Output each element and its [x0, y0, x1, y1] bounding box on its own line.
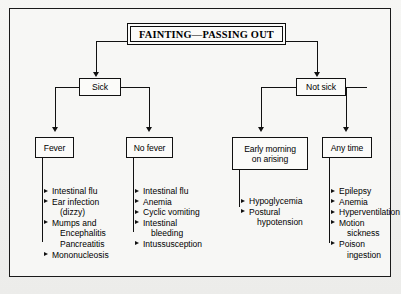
arrow-right-icon — [44, 252, 48, 256]
connector-title-left-horizontal — [96, 41, 128, 42]
arrow-right-icon — [135, 199, 139, 203]
list-item-label: Encephalitis — [60, 228, 106, 239]
arrow-right-icon — [241, 199, 245, 203]
arrow-right-icon — [331, 241, 335, 245]
node-no-fever[interactable]: No fever — [126, 137, 173, 158]
list-item-label: Epilepsy — [339, 186, 371, 197]
list-item-label: Intestinal flu — [143, 186, 188, 197]
connector-notsick-right-vertical — [346, 87, 347, 128]
node-early-morning-label-line2: on arising — [252, 154, 288, 164]
node-early-morning[interactable]: Early morning on arising — [232, 137, 308, 170]
arrow-right-icon — [241, 209, 245, 213]
list-item-label: Motion — [339, 218, 365, 229]
arrow-right-icon — [331, 220, 335, 224]
list-item-label: Mononucleosis — [52, 250, 109, 261]
arrowhead-to-fever — [52, 127, 58, 132]
list-item-label: Mumps and — [52, 218, 96, 229]
node-sick[interactable]: Sick — [79, 78, 121, 96]
list-item-label: Intussusception — [143, 239, 202, 250]
connector-sick-right-horizontal — [120, 87, 150, 88]
list-item-label: Ear infection — [52, 197, 99, 208]
page-title: FAINTING—PASSING OUT — [130, 26, 284, 43]
connector-notsick-right-horizontal — [345, 87, 367, 88]
node-fever[interactable]: Fever — [35, 137, 74, 158]
connector-title-left-vertical — [96, 41, 97, 73]
node-any-time[interactable]: Any time — [322, 137, 372, 158]
list-item-label: sickness — [347, 228, 380, 239]
arrowhead-to-no-fever — [146, 127, 152, 132]
arrow-right-icon — [331, 199, 335, 203]
list-item-label: Pancreatitis — [60, 239, 104, 250]
arrow-right-icon — [44, 220, 48, 224]
arrow-right-icon — [44, 199, 48, 203]
arrowhead-to-not-sick — [314, 72, 320, 77]
arrow-right-icon — [44, 189, 48, 193]
list-item-label: (dizzy) — [60, 207, 85, 218]
connector-notsick-left-horizontal — [261, 87, 297, 88]
list-item-label: hypotension — [257, 217, 303, 228]
arrow-right-icon — [135, 210, 139, 214]
node-not-sick[interactable]: Not sick — [296, 78, 346, 96]
connector-sick-left-vertical — [55, 87, 56, 128]
list-item-label: Poison — [339, 239, 365, 250]
diagram-frame: FAINTING—PASSING OUT Sick Not sick — [9, 8, 391, 277]
arrowhead-to-sick — [93, 72, 99, 77]
node-no-fever-label: No fever — [134, 143, 166, 153]
title-box: FAINTING—PASSING OUT — [127, 23, 286, 45]
arrow-right-icon — [135, 241, 139, 245]
list-item-label: Intestinal flu — [52, 186, 97, 197]
flowchart-page: FAINTING—PASSING OUT Sick Not sick — [0, 0, 401, 294]
list-item-label: Hyperventilation — [339, 207, 400, 218]
arrowhead-to-early-morning — [258, 127, 264, 132]
list-item-label: Cyclic vomiting — [143, 207, 200, 218]
arrowhead-to-any-time — [343, 127, 349, 132]
node-early-morning-label-line1: Early morning — [244, 144, 296, 154]
connector-sick-left-horizontal — [55, 87, 80, 88]
connector-title-right-vertical — [317, 41, 318, 73]
list-item-label: Anemia — [339, 197, 368, 208]
arrow-right-icon — [331, 210, 335, 214]
arrow-right-icon — [135, 220, 139, 224]
list-item-label: Intestinal — [143, 218, 177, 229]
list-item-label: Anemia — [143, 197, 172, 208]
list-item-label: bleeding — [151, 228, 183, 239]
list-item-label: ingestion — [347, 250, 381, 261]
connector-notsick-left-vertical — [261, 87, 262, 128]
node-sick-label: Sick — [92, 82, 108, 92]
node-any-time-label: Any time — [331, 143, 364, 153]
connector-sick-right-vertical — [149, 87, 150, 128]
node-fever-label: Fever — [44, 143, 65, 153]
connector-title-right-horizontal — [285, 41, 318, 42]
arrow-right-icon — [331, 189, 335, 193]
list-item-label: Postural — [249, 207, 280, 218]
arrow-right-icon — [135, 189, 139, 193]
list-item-label: Hypoglycemia — [249, 196, 302, 207]
node-not-sick-label: Not sick — [306, 82, 336, 92]
